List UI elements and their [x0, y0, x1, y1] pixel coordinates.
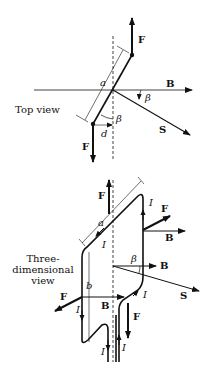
force-label-bottom-3d: F — [133, 311, 140, 322]
dimension-line-a-3d — [82, 181, 141, 243]
torque-on-loop-diagram: F F B S a β β d Top view — [0, 0, 220, 368]
normal-arrow-s-3d — [113, 266, 199, 291]
current-loop-wire — [82, 195, 143, 362]
field-label-left-3d: B — [101, 300, 109, 311]
normal-vector-s — [113, 90, 190, 135]
current-label-4: I — [142, 289, 148, 300]
loop-edge — [93, 55, 132, 124]
current-label-6: I — [121, 342, 127, 353]
angle-arc-3d — [139, 266, 140, 273]
field-label-b: B — [166, 78, 174, 89]
angle-arc-field — [139, 90, 141, 99]
caption-top-view: Top view — [15, 104, 60, 115]
angle-arc-loop — [101, 115, 113, 119]
force-label-left-3d: F — [60, 291, 67, 302]
current-label-1: I — [148, 197, 154, 208]
force-label-top: F — [138, 34, 145, 45]
angle-label-loop: β — [115, 113, 122, 124]
current-label-3: I — [75, 304, 81, 315]
angle-label-field: β — [144, 92, 151, 103]
field-label-center-3d: B — [160, 260, 168, 271]
normal-label-s-3d: S — [180, 290, 187, 301]
offset-label-d: d — [101, 128, 107, 139]
side-label-b-3d: b — [86, 280, 92, 291]
side-label-a: a — [100, 77, 106, 88]
angle-label-3d: β — [130, 253, 137, 264]
force-label-right-3d: F — [161, 203, 168, 214]
current-label-5: I — [100, 346, 106, 357]
caption-3d-line-3: view — [30, 275, 55, 286]
normal-label-s: S — [159, 124, 166, 135]
current-label-2: I — [101, 239, 107, 250]
top-view: F F B S a β β d Top view — [15, 18, 192, 162]
force-label-bottom: F — [82, 141, 89, 152]
force-arrow-right-3d — [143, 216, 170, 230]
three-dimensional-view: F F F F B B B S β a b I I I I I I Three-… — [12, 177, 199, 362]
force-label-top-3d: F — [98, 190, 105, 201]
caption-3d-line-1: Three- — [26, 253, 59, 264]
field-label-right-3d: B — [165, 232, 173, 243]
caption-3d-line-2: dimensional — [12, 264, 73, 275]
side-label-a-3d: a — [98, 217, 104, 228]
